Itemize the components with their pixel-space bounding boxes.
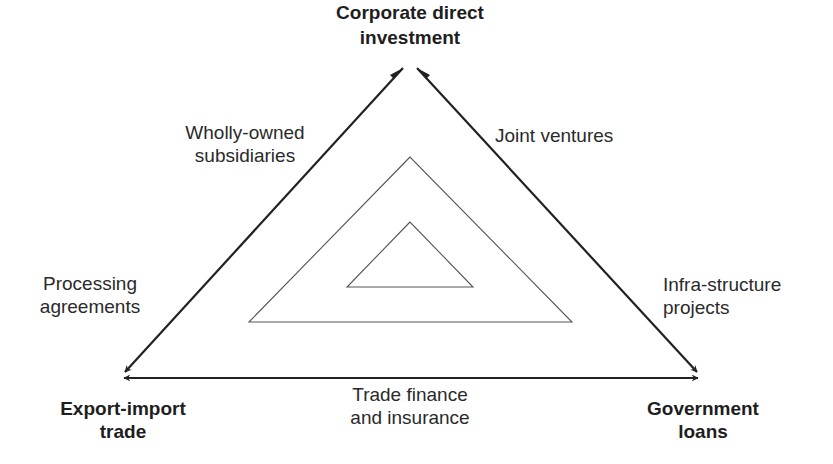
- edge-processing-line1: Processing: [20, 272, 160, 295]
- vertex-bottom-left-line1: Export-import: [28, 397, 218, 420]
- edge-trade-finance-line1: Trade finance: [330, 383, 490, 406]
- arrowhead-top-left-icon: [390, 68, 403, 79]
- edge-label-wholly-owned: Wholly-owned subsidiaries: [170, 121, 320, 167]
- edge-infrastructure-line2: projects: [663, 296, 823, 319]
- vertex-bottom-left-line2: trade: [28, 420, 218, 443]
- edge-joint-ventures-line1: Joint ventures: [495, 124, 655, 147]
- edge-label-joint-ventures: Joint ventures: [495, 124, 655, 147]
- edge-trade-finance-line2: and insurance: [330, 406, 490, 429]
- vertex-label-bottom-right: Government loans: [620, 397, 786, 443]
- vertex-label-bottom-left: Export-import trade: [28, 397, 218, 443]
- middle-triangle: [249, 157, 572, 322]
- edge-label-trade-finance: Trade finance and insurance: [330, 383, 490, 429]
- inner-triangle: [347, 222, 473, 287]
- edge-wholly-owned-line1: Wholly-owned: [170, 121, 320, 144]
- edge-label-processing: Processing agreements: [20, 272, 160, 318]
- vertex-label-top: Corporate direct investment: [310, 0, 510, 50]
- edge-infrastructure-line1: Infra-structure: [663, 273, 823, 296]
- vertex-top-line2: investment: [310, 25, 510, 50]
- arrow-left-edge: [125, 68, 403, 372]
- edge-wholly-owned-line2: subsidiaries: [170, 144, 320, 167]
- vertex-bottom-right-line1: Government: [620, 397, 786, 420]
- vertex-top-line1: Corporate direct: [310, 0, 510, 25]
- arrow-right-edge: [417, 68, 697, 372]
- edge-processing-line2: agreements: [20, 295, 160, 318]
- arrowhead-top-right-icon: [417, 68, 430, 79]
- edge-label-infrastructure: Infra-structure projects: [663, 273, 823, 319]
- vertex-bottom-right-line2: loans: [620, 420, 786, 443]
